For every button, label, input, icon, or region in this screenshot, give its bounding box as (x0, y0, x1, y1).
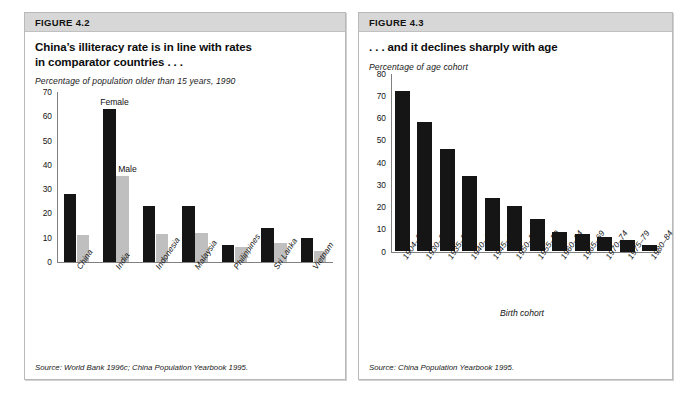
figure-4-2-title-line2: in comparator countries . . . (35, 56, 183, 68)
y-tick-label: 20 (377, 202, 386, 212)
annotation-male: Male (118, 164, 137, 174)
y-tick-label: 10 (43, 233, 52, 243)
figure-4-3-band: FIGURE 4.3 (359, 13, 672, 32)
figure-4-2-plot-area: 010203040506070ChinaIndiaIndonesiaMalays… (35, 86, 336, 379)
bar-cohort-1940-44 (462, 176, 477, 252)
annotation-female: Female (100, 97, 129, 107)
y-tick-label: 50 (377, 135, 386, 145)
y-tick-label: 10 (377, 224, 386, 234)
figure-4-3-body: . . . and it declines sharply with age P… (359, 32, 672, 379)
figure-4-3-number: FIGURE 4.3 (369, 17, 662, 28)
figure-4-3-y-axis-line (391, 74, 392, 252)
figures-page: FIGURE 4.2 China’s illiteracy rate is in… (0, 0, 691, 394)
bar-sri-lanka-female (261, 228, 274, 262)
figure-4-3-y-axis: 01020304050607080 (369, 72, 386, 252)
bar-indonesia-female (143, 206, 156, 262)
y-tick-label: 60 (377, 113, 386, 123)
bar-india-female (103, 109, 116, 262)
bar-malaysia-female (182, 206, 195, 262)
y-tick-label: 70 (43, 87, 52, 97)
figure-4-2-source: Source: World Bank 1996c; China Populati… (35, 363, 248, 372)
figure-4-2-panel: FIGURE 4.2 China’s illiteracy rate is in… (24, 12, 346, 380)
figure-4-3-source: Source: China Population Yearbook 1995. (369, 363, 514, 372)
figure-4-3-panel: FIGURE 4.3 . . . and it declines sharply… (358, 12, 673, 380)
figure-4-2-y-axis: 010203040506070 (35, 86, 52, 262)
figure-4-2-number: FIGURE 4.2 (35, 17, 335, 28)
y-tick-label: 40 (377, 158, 386, 168)
figure-4-2-subtitle: Percentage of population older than 15 y… (35, 76, 336, 86)
y-tick-label: 50 (43, 136, 52, 146)
bar-cohort-1945-49 (485, 198, 500, 251)
y-tick-label: 40 (43, 160, 52, 170)
bar-cohort-1950-54 (507, 206, 522, 252)
figure-4-3-title: . . . and it declines sharply with age (369, 40, 663, 55)
figure-4-2-title-line1: China’s illiteracy rate is in line with … (35, 41, 252, 53)
y-tick-label: 0 (47, 257, 52, 267)
figure-4-3-x-axis-caption: Birth cohort (500, 308, 544, 318)
bar-india-male (116, 176, 129, 262)
y-tick-label: 30 (377, 180, 386, 190)
bar-cohort-1935-39 (440, 149, 455, 251)
y-tick-label: 0 (381, 247, 386, 257)
y-tick-label: 20 (43, 208, 52, 218)
bar-cohort-1930-34 (417, 122, 432, 251)
y-tick-label: 60 (43, 111, 52, 121)
figure-4-3-plot-area: 010203040506070801904–291930–341935–3919… (369, 72, 663, 380)
bar-vietnam-female (301, 238, 314, 262)
figure-4-2-body: China’s illiteracy rate is in line with … (25, 32, 345, 379)
y-tick-label: 70 (377, 91, 386, 101)
figure-4-3-subtitle: Percentage of age cohort (369, 62, 663, 72)
y-tick-label: 80 (377, 69, 386, 79)
figure-4-2-y-axis-line (57, 92, 58, 262)
y-tick-label: 30 (43, 184, 52, 194)
figure-4-2-band: FIGURE 4.2 (25, 13, 345, 32)
figure-4-2-title: China’s illiteracy rate is in line with … (35, 40, 336, 69)
bar-cohort-1904-29 (395, 91, 410, 251)
bar-china-female (64, 194, 77, 262)
bar-philippines-female (222, 245, 235, 262)
